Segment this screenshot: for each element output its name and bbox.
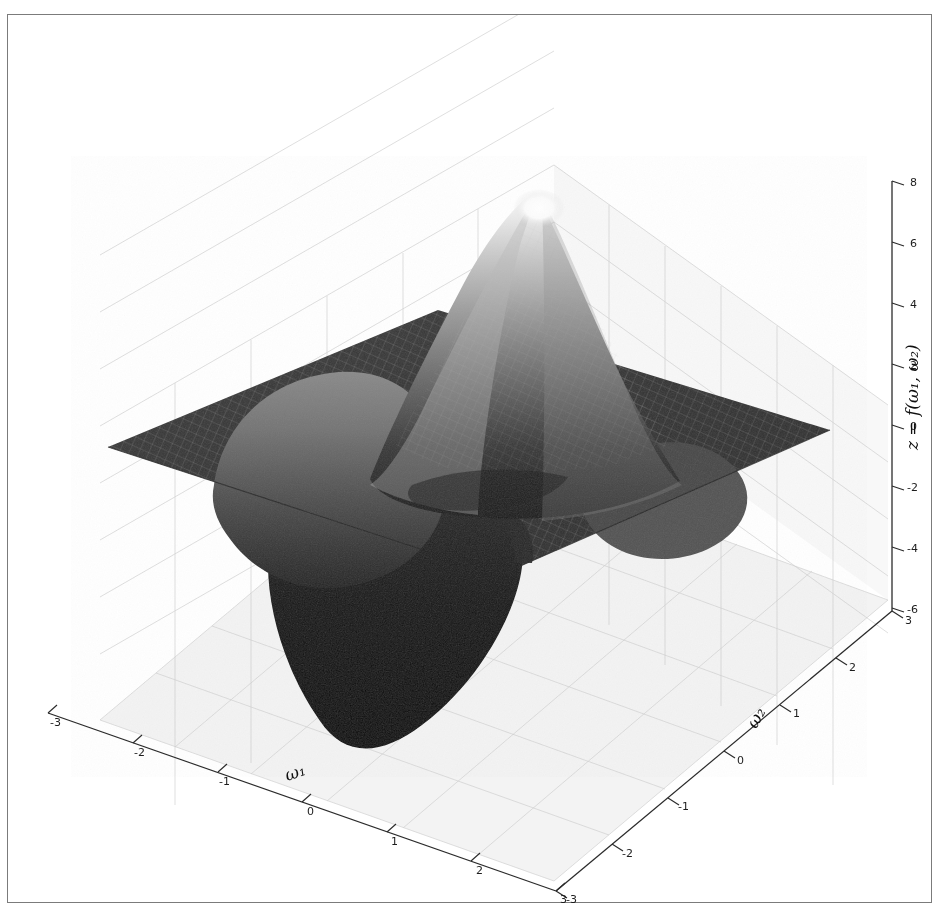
x-tick-label: 1 (391, 835, 398, 848)
z-tick-label: 4 (910, 298, 917, 311)
z-axis-label: z = f(ω₁, ω₂) (902, 344, 922, 450)
x-tick-label: -3 (50, 716, 61, 729)
x-tick-label: 0 (307, 805, 314, 818)
plot-svg (8, 15, 931, 902)
y-tick-label: -2 (622, 847, 633, 860)
z-tick-label: 6 (910, 237, 917, 250)
peak-apex-highlight (513, 189, 565, 227)
y-tick-label: 0 (737, 754, 744, 767)
z-tick-label: -4 (907, 542, 918, 555)
figure-root: -3 -2 -1 0 1 2 3 -3 -2 -1 0 1 2 3 8 6 4 … (0, 0, 947, 920)
z-tick-label: -2 (907, 481, 918, 494)
y-tick-label: 1 (793, 707, 800, 720)
z-tick-label: -6 (907, 603, 918, 616)
z-tick-label: 8 (910, 176, 917, 189)
y-tick-label: 2 (849, 661, 856, 674)
y-tick-label: -3 (566, 893, 577, 906)
x-tick-label: 2 (476, 864, 483, 877)
x-tick-label: -2 (134, 746, 145, 759)
x-tick-label: -1 (219, 775, 230, 788)
y-tick-label: -1 (678, 800, 689, 813)
surface-plot-canvas (8, 15, 931, 902)
